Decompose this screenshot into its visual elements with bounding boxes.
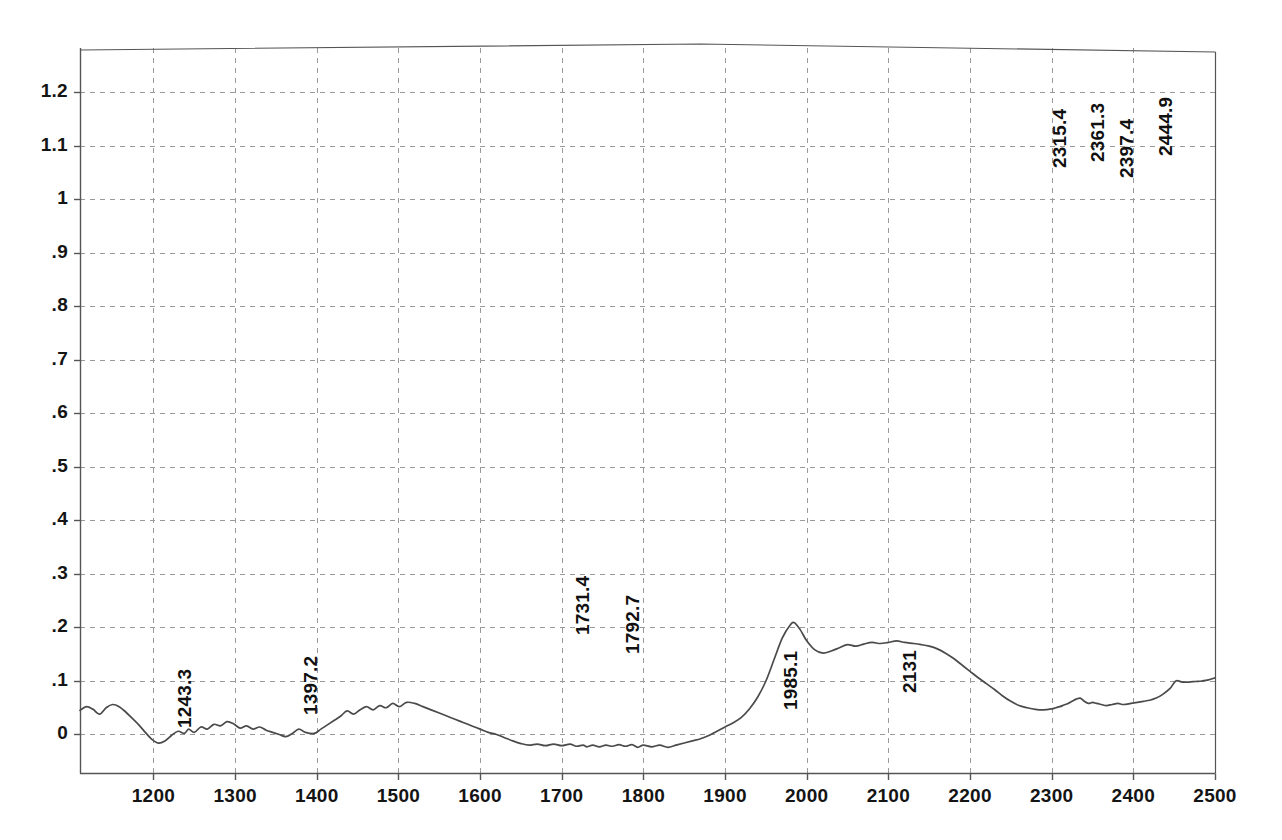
x-axis-tick-label: 1700 [522, 785, 602, 807]
spectrum-curve [80, 622, 1215, 747]
x-axis-tick-label: 1500 [358, 785, 438, 807]
y-axis-tick-label: 1 [57, 187, 68, 209]
y-axis-tick-label: .2 [52, 615, 68, 637]
peak-annotation-label: 2444.9 [1155, 96, 1177, 155]
x-axis-tick-label: 2200 [930, 785, 1010, 807]
y-axis-tick-label: .4 [52, 508, 68, 530]
peak-annotation-label: 2315.4 [1049, 108, 1071, 167]
y-axis-tick-label: .6 [52, 401, 68, 423]
x-axis-tick-label: 2300 [1012, 785, 1092, 807]
y-gridlines [80, 93, 1215, 735]
y-axis-tick-label: .1 [52, 669, 68, 691]
peak-annotation-label: 1397.2 [300, 656, 322, 715]
spectrum-chart: 0.1.2.3.4.5.6.7.8.911.11.2 1200130014001… [0, 0, 1282, 840]
y-axis-tick-label: .8 [52, 294, 68, 316]
peak-annotation-label: 2397.4 [1116, 119, 1138, 178]
x-axis-tick-label: 1200 [113, 785, 193, 807]
x-axis-tick-label: 1800 [603, 785, 683, 807]
peak-annotation-label: 1731.4 [572, 575, 594, 634]
peak-annotation-label: 1792.7 [622, 595, 644, 654]
y-axis-tick-label: 0 [57, 722, 68, 744]
peak-annotation-label: 2361.3 [1087, 103, 1109, 162]
x-axis-tick-label: 1900 [685, 785, 765, 807]
y-axis-tick-label: .5 [52, 455, 68, 477]
x-axis-tick-label: 1300 [195, 785, 275, 807]
y-axis-tick-label: .9 [52, 241, 68, 263]
y-axis-tick-label: 1.2 [41, 80, 68, 102]
x-axis-tick-label: 2100 [848, 785, 928, 807]
x-axis-tick-label: 2400 [1093, 785, 1173, 807]
y-axis-tick-label: .3 [52, 562, 68, 584]
axis-frame [80, 44, 1216, 774]
axis-tick-marks [74, 93, 1216, 781]
peak-annotation-label: 1243.3 [174, 669, 196, 728]
y-axis-tick-label: .7 [52, 348, 68, 370]
x-axis-tick-label: 1400 [277, 785, 357, 807]
peak-annotation-label: 1985.1 [780, 651, 802, 710]
x-axis-tick-label: 1600 [440, 785, 520, 807]
y-axis-tick-label: 1.1 [41, 134, 68, 156]
x-axis-tick-label: 2500 [1175, 785, 1255, 807]
x-axis-tick-label: 2000 [767, 785, 847, 807]
peak-annotation-label: 2131 [899, 650, 921, 693]
